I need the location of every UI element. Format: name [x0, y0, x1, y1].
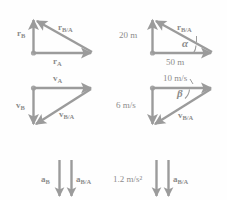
- panel-acceleration-values-arrows: [157, 160, 169, 196]
- label-r-b-over-a: rB/A: [177, 23, 192, 33]
- label-r-a: rA: [53, 57, 62, 67]
- label-20m: 20 m: [119, 31, 137, 40]
- angle-tick-beta: [190, 79, 193, 84]
- label-50m: 50 m: [166, 58, 184, 67]
- vector-arrows-canvas: [0, 0, 227, 200]
- label-angle-alpha: α: [182, 38, 188, 49]
- label-a-b: aB: [41, 175, 50, 185]
- label-a-b-over-a: aB/A: [76, 175, 91, 185]
- label-r-b: rB: [17, 29, 25, 39]
- label-10ms: 10 m/s: [163, 74, 187, 83]
- label-r-b-over-a: rB/A: [58, 23, 73, 33]
- label-6ms: 6 m/s: [116, 101, 136, 110]
- label-v-b: vB: [16, 101, 25, 111]
- angle-arc-beta: [185, 90, 190, 99]
- label-v-a: vA: [53, 74, 62, 84]
- label-1p2ms2: 1.2 m/s²: [113, 175, 142, 184]
- label-v-b-over-a: vB/A: [59, 110, 74, 120]
- label-angle-beta: β: [177, 88, 183, 99]
- vector-diagram-figure: rB rA rB/A 20 m 50 m rB/A α vA vB vB/A 1…: [0, 0, 227, 200]
- panel-acceleration-generic-arrows: [60, 160, 72, 196]
- label-a-b-over-a: aB/A: [173, 175, 188, 185]
- label-v-b-over-a: vB/A: [178, 111, 193, 121]
